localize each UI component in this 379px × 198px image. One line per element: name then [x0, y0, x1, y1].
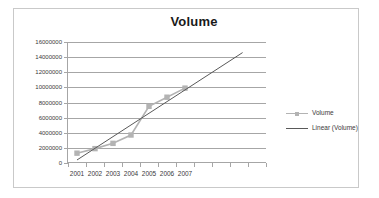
y-axis-tick-label: 8000000	[39, 100, 62, 106]
x-axis-tick	[68, 163, 69, 167]
y-axis-tick-label: 6000000	[39, 115, 62, 121]
x-axis-tick	[158, 163, 159, 167]
legend-item[interactable]: Linear (Volume)	[286, 121, 372, 136]
y-axis-tick-label: 10000000	[35, 84, 62, 90]
data-point-marker[interactable]	[74, 150, 79, 155]
x-axis-tick-label: 2005	[142, 170, 156, 177]
x-axis-tick	[266, 163, 267, 167]
legend-line-marker-icon	[286, 110, 308, 118]
y-axis-tick-label: 16000000	[35, 39, 62, 45]
x-axis-tick-label: 2006	[160, 170, 174, 177]
x-axis-tick-label: 2003	[106, 170, 120, 177]
legend-line-icon	[286, 125, 308, 133]
x-axis-tick	[248, 163, 249, 167]
trendline	[77, 53, 243, 160]
data-point-marker[interactable]	[110, 141, 115, 146]
chart-title: Volume	[94, 14, 294, 29]
y-axis-tick-label: 14000000	[35, 54, 62, 60]
y-axis-tick-label: 4000000	[39, 130, 62, 136]
x-axis-tick-label: 2004	[124, 170, 138, 177]
legend-item[interactable]: Volume	[286, 106, 372, 121]
x-axis-tick	[212, 163, 213, 167]
data-point-marker[interactable]	[164, 95, 169, 100]
x-axis-tick	[122, 163, 123, 167]
x-axis-tick-label: 2007	[178, 170, 192, 177]
chart-legend[interactable]: VolumeLinear (Volume)	[286, 106, 372, 136]
x-axis-tick	[230, 163, 231, 167]
x-axis-tick-label: 2002	[88, 170, 102, 177]
legend-item-label: Volume	[312, 110, 334, 117]
data-point-marker[interactable]	[128, 132, 133, 137]
chart-container[interactable]: Volume 160000001400000012000000100000008…	[13, 8, 359, 188]
y-axis-tick-label: 12000000	[35, 69, 62, 75]
x-axis-tick	[86, 163, 87, 167]
x-axis-tick	[104, 163, 105, 167]
x-axis-tick	[140, 163, 141, 167]
x-axis-tick-label: 2001	[70, 170, 84, 177]
x-axis-tick	[176, 163, 177, 167]
y-axis-tick-label: 2000000	[39, 145, 62, 151]
legend-item-label: Linear (Volume)	[312, 125, 358, 132]
y-axis-tick-label: 0	[59, 160, 62, 166]
series-layer	[68, 42, 266, 163]
x-axis-tick	[194, 163, 195, 167]
data-point-marker[interactable]	[146, 104, 151, 109]
plot-area[interactable]: 1600000014000000120000001000000080000006…	[68, 42, 266, 163]
